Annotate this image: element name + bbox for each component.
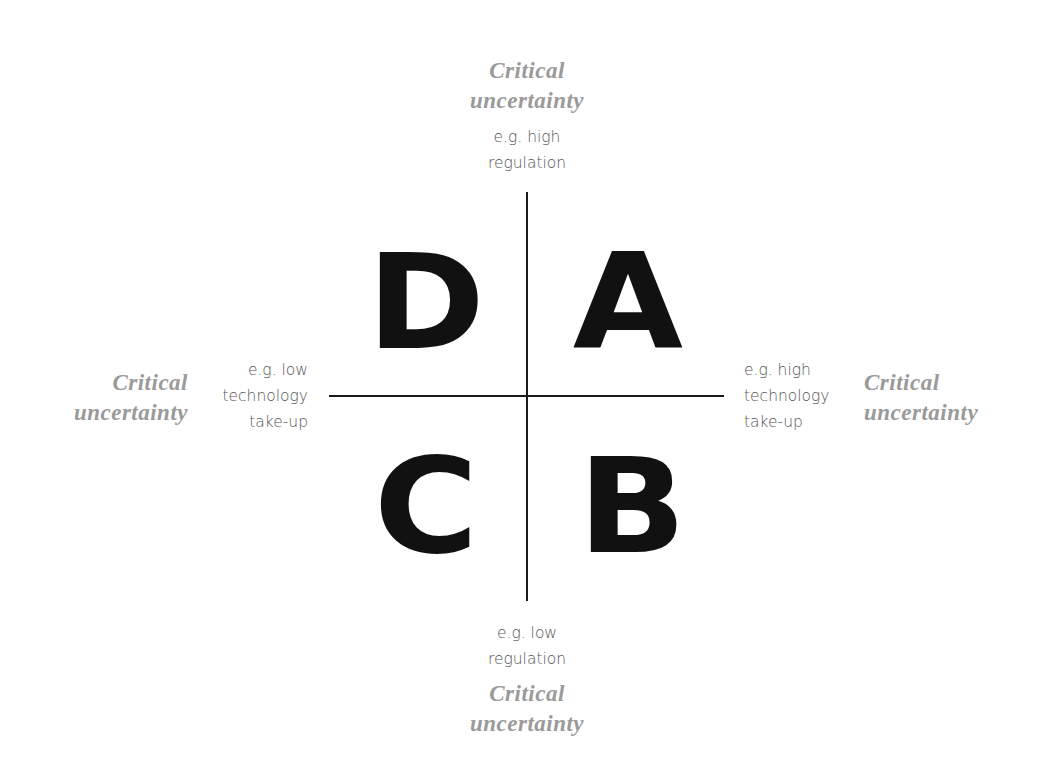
right-critical-line1: Critical — [864, 368, 1024, 398]
left-critical-uncertainty-label: Critical uncertainty — [40, 368, 188, 428]
left-critical-line1: Critical — [40, 368, 188, 398]
right-example-line2: technology — [744, 383, 856, 409]
bottom-critical-line1: Critical — [427, 679, 627, 709]
right-critical-uncertainty-label: Critical uncertainty — [864, 368, 1024, 428]
scenario-matrix-diagram: D A C B Critical uncertainty e.g. high r… — [0, 0, 1047, 770]
right-example-line1: e.g. high — [744, 357, 856, 383]
left-example-label: e.g. low technology take-up — [196, 357, 308, 435]
top-example-line2: regulation — [427, 150, 627, 176]
bottom-critical-line2: uncertainty — [427, 709, 627, 739]
bottom-example-label: e.g. low regulation — [427, 620, 627, 672]
top-critical-line1: Critical — [427, 56, 627, 86]
bottom-critical-uncertainty-label: Critical uncertainty — [427, 679, 627, 739]
quadrant-label-a: A — [563, 236, 693, 368]
top-critical-uncertainty-label: Critical uncertainty — [427, 56, 627, 116]
top-critical-line2: uncertainty — [427, 86, 627, 116]
left-critical-line2: uncertainty — [40, 398, 188, 428]
top-example-label: e.g. high regulation — [427, 124, 627, 176]
right-example-line3: take-up — [744, 409, 856, 435]
top-example-line1: e.g. high — [427, 124, 627, 150]
left-example-line3: take-up — [196, 409, 308, 435]
left-example-line1: e.g. low — [196, 357, 308, 383]
quadrant-label-d: D — [361, 236, 491, 368]
quadrant-label-c: C — [361, 440, 491, 572]
right-critical-line2: uncertainty — [864, 398, 1024, 428]
horizontal-axis-line — [329, 395, 724, 397]
quadrant-label-b: B — [567, 440, 697, 572]
right-example-label: e.g. high technology take-up — [744, 357, 856, 435]
bottom-example-line2: regulation — [427, 646, 627, 672]
bottom-example-line1: e.g. low — [427, 620, 627, 646]
left-example-line2: technology — [196, 383, 308, 409]
